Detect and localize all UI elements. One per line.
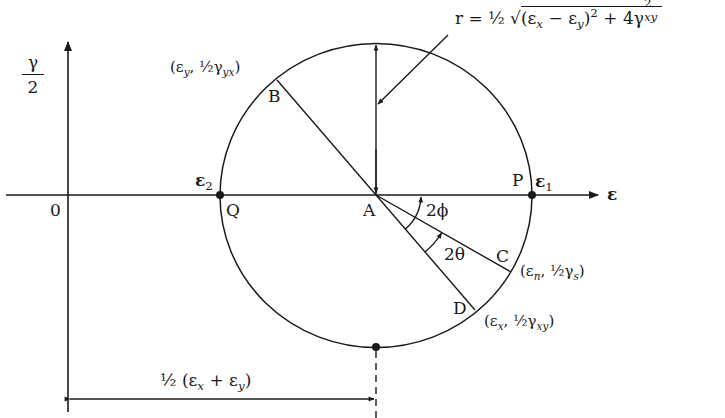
- radius-leader: [378, 35, 448, 104]
- fraction-bar: [22, 74, 44, 75]
- radius-formula: r = ½ √(εx − εy)2 + 4γ2xy: [455, 8, 662, 31]
- d-coord-close: ): [548, 312, 554, 330]
- rf-gamma-sup: 2: [644, 0, 652, 9]
- cd-plus: + ε: [204, 370, 238, 390]
- angle-2theta-arc: [425, 233, 442, 252]
- point-D-label: D: [453, 300, 467, 317]
- point-C-label: C: [496, 248, 509, 265]
- radicand: (εx − εy)2 + 4γ2xy: [521, 6, 662, 28]
- rf-term2-sub: y: [577, 17, 584, 31]
- rf-gamma-sub: xy: [644, 12, 657, 24]
- epsilon-1-subscript: 1: [545, 180, 553, 194]
- sqrt-icon: √: [510, 8, 521, 28]
- gamma-symbol: γ: [22, 52, 44, 72]
- b-coord-open: (ε: [170, 58, 184, 76]
- cd-prefix: ½ (ε: [160, 370, 197, 390]
- point-C-coordinates: (εn, ½γs): [520, 264, 585, 281]
- denominator-2: 2: [22, 77, 44, 97]
- gamma-over-2-label: γ 2: [22, 52, 44, 97]
- point-D-coordinates: (εx, ½γxy): [484, 314, 554, 331]
- d-coord-mid: , ½γ: [504, 312, 537, 330]
- c-coord-mid: , ½γ: [540, 262, 573, 280]
- epsilon-1-label: ε1: [535, 173, 553, 194]
- c-coord-open: (ε: [520, 262, 534, 280]
- point-A-label: A: [363, 202, 375, 219]
- b-coord-mid: , ½γ: [190, 58, 223, 76]
- rf-plus: + 4γ: [598, 8, 644, 28]
- cd-sub2: y: [238, 379, 245, 393]
- b-coord-close: ): [234, 58, 240, 76]
- c-coord-close: ): [579, 262, 585, 280]
- rf-power: 2: [590, 6, 598, 20]
- rf-term1: (ε: [521, 8, 536, 28]
- cd-close: ): [245, 370, 252, 390]
- center-dimension-label: ½ (εx + εy): [160, 372, 251, 393]
- epsilon-2-symbol: ε: [195, 170, 205, 190]
- d-coord-open: (ε: [484, 312, 498, 330]
- d-coord-sub2: xy: [537, 320, 549, 332]
- point-B-coordinates: (εy, ½γyx): [170, 60, 240, 77]
- rf-minus: − ε: [543, 8, 577, 28]
- radius-prefix: r = ½: [455, 8, 510, 28]
- point-B-label: B: [268, 88, 281, 105]
- point-P-label: P: [512, 172, 523, 189]
- epsilon-axis-label: ε: [607, 186, 617, 203]
- epsilon-2-label: ε2: [195, 172, 213, 193]
- point-Q-label: Q: [226, 202, 240, 219]
- origin-label: 0: [50, 202, 61, 219]
- epsilon-2-subscript: 2: [205, 179, 213, 193]
- point-bottom: [372, 343, 380, 351]
- angle-2theta-label: 2θ: [444, 246, 465, 263]
- point-Q: [216, 191, 224, 199]
- b-coord-sub2: yx: [223, 66, 235, 78]
- angle-2phi-label: 2ϕ: [426, 202, 448, 219]
- epsilon-1-symbol: ε: [535, 171, 545, 191]
